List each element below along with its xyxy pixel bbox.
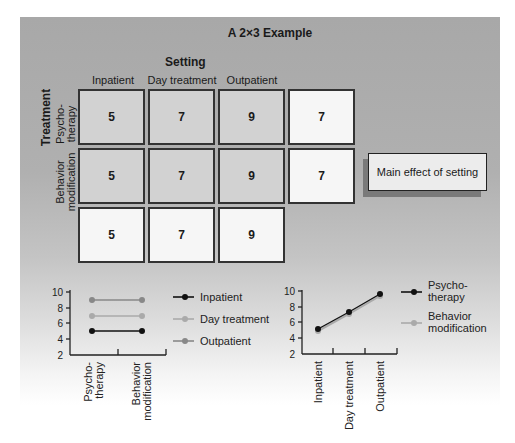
svg-text:therapy: therapy (428, 291, 465, 303)
svg-text:2: 2 (289, 349, 295, 360)
svg-text:10: 10 (284, 286, 296, 297)
svg-text:4: 4 (289, 333, 295, 344)
legend-item-inpatient: Inpatient (173, 291, 242, 303)
svg-text:Inpatient: Inpatient (312, 361, 324, 403)
left-series-outpatient (89, 297, 145, 303)
left-series-day-treatment (89, 313, 145, 319)
left-chart-xlabels: Psycho- therapy Behavior modification (82, 362, 153, 421)
right-chart-yticks: 10 8 6 4 2 (284, 286, 296, 360)
svg-text:8: 8 (57, 303, 63, 314)
svg-text:Outpatient: Outpatient (374, 361, 386, 412)
svg-text:10: 10 (52, 287, 64, 298)
svg-text:6: 6 (57, 318, 63, 329)
left-series-inpatient (89, 328, 145, 334)
svg-text:Psycho-: Psycho- (428, 279, 468, 291)
svg-text:therapy: therapy (93, 362, 105, 399)
svg-text:Outpatient: Outpatient (200, 335, 251, 347)
right-chart-xlabels: Inpatient Day treatment Outpatient (312, 361, 386, 430)
right-chart-legend: Psycho- therapy Behavior modification (401, 279, 487, 334)
svg-text:8: 8 (289, 302, 295, 313)
svg-text:6: 6 (289, 317, 295, 328)
right-chart-axes (298, 290, 397, 354)
svg-text:Day treatment: Day treatment (343, 361, 355, 430)
legend-item-day-treatment: Day treatment (173, 313, 269, 325)
svg-text:Inpatient: Inpatient (200, 291, 242, 303)
right-series-psychotherapy (315, 291, 383, 332)
legend-item-behavior-modification: Behavior modification (401, 310, 487, 334)
left-chart-legend: Inpatient Day treatment Outpatient (173, 291, 269, 347)
svg-text:4: 4 (57, 334, 63, 345)
legend-item-psychotherapy: Psycho- therapy (401, 279, 468, 303)
svg-text:Day treatment: Day treatment (200, 313, 269, 325)
svg-text:modification: modification (141, 362, 153, 421)
svg-text:Behavior: Behavior (428, 310, 472, 322)
left-chart-yticks: 10 8 6 4 2 (52, 287, 64, 361)
svg-text:modification: modification (428, 322, 487, 334)
chart-treatment-by-setting: 10 8 6 4 2 Psycho- therapy Behavior modi… (0, 0, 515, 443)
svg-text:2: 2 (57, 350, 63, 361)
legend-item-outpatient: Outpatient (173, 335, 251, 347)
